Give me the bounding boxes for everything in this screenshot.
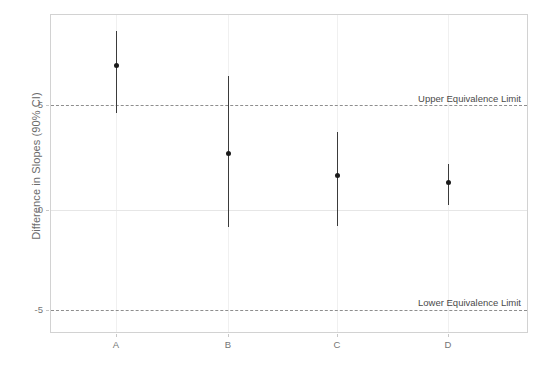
point-estimate-a: [114, 63, 119, 68]
y-axis-label-0: 0: [17, 204, 43, 215]
point-estimate-c: [335, 173, 340, 178]
x-axis-label-b: B: [208, 339, 248, 350]
lower-equivalence-limit-line: Lower Equivalence Limit: [51, 310, 527, 311]
x-axis-tick-b: [228, 334, 229, 337]
equivalence-test-chart: Difference in Slopes (90% CI) 5 0 -5 Upp…: [0, 0, 542, 367]
y-axis-title: Difference in Slopes (90% CI): [30, 46, 42, 286]
y-axis-tick-5: [46, 105, 49, 106]
y-axis-tick-0: [46, 210, 49, 211]
plot-panel: Upper Equivalence Limit Lower Equivalenc…: [50, 14, 528, 333]
x-axis-tick-a: [116, 334, 117, 337]
x-axis-label-c: C: [317, 339, 357, 350]
x-axis-tick-c: [337, 334, 338, 337]
lower-equivalence-limit-label: Lower Equivalence Limit: [418, 297, 521, 308]
upper-equivalence-limit-label: Upper Equivalence Limit: [418, 93, 521, 104]
errorbar-c: [337, 132, 338, 226]
point-estimate-d: [446, 180, 451, 185]
zero-reference-line: [51, 210, 527, 211]
upper-equivalence-limit-line: Upper Equivalence Limit: [51, 105, 527, 106]
errorbar-a: [116, 31, 117, 113]
y-axis-label-5: 5: [17, 99, 43, 110]
y-axis-tick-minus5: [46, 310, 49, 311]
x-axis-label-a: A: [96, 339, 136, 350]
x-axis-tick-d: [448, 334, 449, 337]
y-axis-label-minus5: -5: [17, 304, 43, 315]
x-axis-label-d: D: [428, 339, 468, 350]
point-estimate-b: [226, 151, 231, 156]
